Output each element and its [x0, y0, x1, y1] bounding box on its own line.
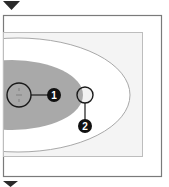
top-triangle-icon — [3, 1, 20, 10]
callout-marker-2: 2 — [78, 119, 92, 133]
callout-label-1: 1 — [51, 90, 57, 101]
callout-label-2: 2 — [82, 121, 88, 132]
diagram-canvas: 1 2 — [0, 0, 169, 187]
callout-marker-1: 1 — [47, 88, 61, 102]
bottom-triangle-icon — [3, 181, 18, 187]
